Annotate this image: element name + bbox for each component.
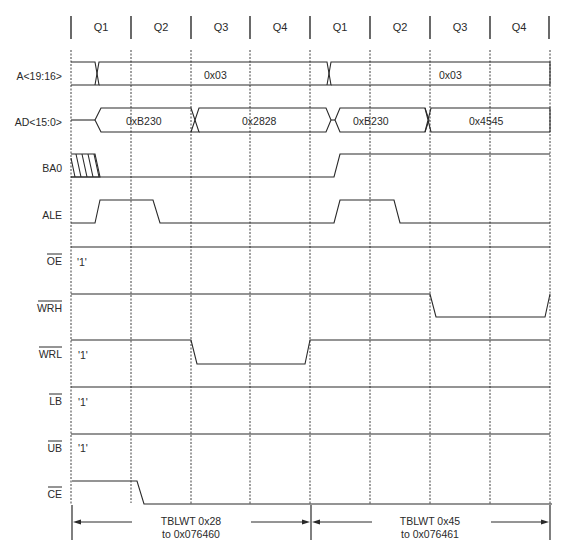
signal-label-wrl: WRL [39,348,62,360]
waveform-ce [72,481,552,504]
q-label: Q3 [453,21,468,33]
signal-labels: A<19:16> AD<15:0> BA0 ALE OE WRH WRL LB … [15,70,62,500]
bus-value: 0xB230 [353,115,389,127]
cycle2-annotation-line1: TBLWT 0x45 [400,515,460,527]
cycle-span-arrows: TBLWT 0x28 to 0x076460 TBLWT 0x45 to 0x0… [72,505,550,540]
arrow-right-icon [541,520,549,525]
q-label: Q1 [333,21,348,33]
waveform-a: 0x03 0x03 [71,62,550,85]
q-label: Q2 [393,21,408,33]
cycle1-annotation-line2: to 0x076460 [162,528,220,540]
bus-value: 0x03 [439,69,462,81]
q-label: Q1 [94,21,109,33]
arrow-left-icon [312,520,320,525]
signal-label-oe: OE [47,255,62,267]
bus-value: 0x2828 [242,115,277,127]
q-label: Q3 [214,21,229,33]
waveform-ub: '1' [71,434,550,454]
arrow-left-icon [73,520,81,525]
waveform-wrl: '1' [71,340,550,364]
header-ticks [71,16,549,39]
bus-value: 0x4545 [469,115,504,127]
q-label: Q2 [154,21,169,33]
signal-label-ub: UB [47,442,62,454]
state-value: '1' [78,442,88,454]
timing-diagram: Q1 Q2 Q3 Q4 Q1 Q2 Q3 Q4 A<19:16> AD<15:0… [0,0,565,554]
state-value: '1' [78,396,88,408]
cycle1-annotation-line1: TBLWT 0x28 [161,515,221,527]
waveform-oe: '1' [71,247,550,268]
waveform-lb: '1' [71,387,550,408]
signal-label-wrh: WRH [37,302,62,314]
arrow-right-icon [302,520,310,525]
signal-label-lb: LB [49,395,62,407]
signal-label-ce: CE [47,488,62,500]
state-value: '1' [78,349,88,361]
signal-label-ad: AD<15:0> [15,116,62,128]
waveform-ale [71,200,550,223]
cycle2-annotation-line2: to 0x076461 [401,528,459,540]
q-label: Q4 [273,21,288,33]
waveform-ad: 0xB230 0x2828 0xB230 0x4545 [71,108,550,132]
waveform-wrh [71,294,550,317]
bus-value: 0x03 [204,69,227,81]
bus-value: 0xB230 [126,115,162,127]
state-value: '1' [77,256,87,268]
signal-label-a: A<19:16> [16,70,62,82]
signal-label-ba0: BA0 [42,162,62,174]
signal-label-ale: ALE [42,209,62,221]
q-label: Q4 [512,21,527,33]
waveform-ba0 [71,154,550,177]
